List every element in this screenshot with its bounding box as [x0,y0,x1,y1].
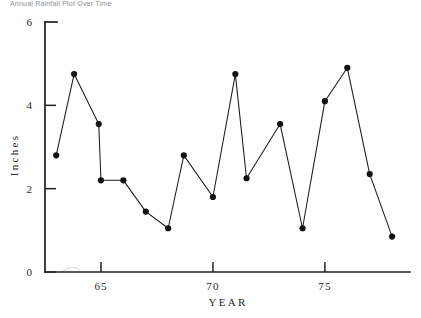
data-point [71,71,77,77]
data-point [367,171,373,177]
data-point [181,152,187,158]
x-axis-title: YEAR [208,296,247,308]
y-axis-tick-labels: 6420 [26,16,33,278]
rainfall-line-chart: 6420 657075 YEAR Inches [0,0,421,318]
data-point [322,98,328,104]
data-point [277,121,283,127]
y-axis-ticks [45,105,56,272]
x-tick-label-70: 70 [206,280,219,292]
y-tick-label-2: 2 [26,183,33,195]
figure-container: Annual Rainfall Plot Over Time 6420 6570… [0,0,421,318]
data-point [120,177,126,183]
rainfall-series-line [56,68,392,237]
x-tick-label-65: 65 [94,280,107,292]
data-point [96,121,102,127]
data-point [344,65,350,71]
y-tick-label-4: 4 [26,99,33,111]
data-point [165,225,171,231]
y-tick-label-0: 0 [26,266,33,278]
x-axis-tick-labels: 657075 [94,280,331,292]
data-point [389,233,395,239]
data-point [53,152,59,158]
data-point [299,225,305,231]
data-point [210,194,216,200]
data-point [232,71,238,77]
y-axis-title: Inches [8,134,20,177]
y-tick-label-6: 6 [26,16,33,28]
data-point [143,208,149,214]
x-tick-label-75: 75 [318,280,331,292]
rainfall-series-markers [53,65,395,240]
data-point [98,177,104,183]
data-point [243,175,249,181]
x-axis-ticks [101,262,325,272]
